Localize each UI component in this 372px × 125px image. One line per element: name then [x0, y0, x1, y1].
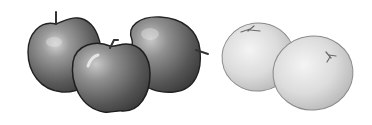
apples-group	[28, 12, 208, 112]
oranges-group	[218, 18, 357, 114]
fruit-illustration	[0, 0, 372, 125]
fruit-scene	[0, 0, 372, 125]
apple-front	[72, 40, 150, 112]
